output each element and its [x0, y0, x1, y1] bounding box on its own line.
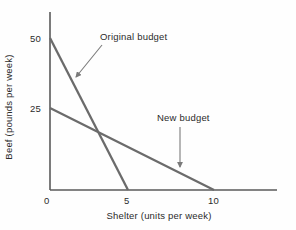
x-tick-label-0: 0	[44, 195, 49, 206]
y-tick-label-25: 25	[30, 103, 41, 114]
y-tick-label-50: 50	[30, 33, 41, 44]
x-axis-title: Shelter (units per week)	[106, 210, 211, 221]
original-budget-label: Original budget	[100, 31, 167, 42]
x-tick-label-10: 10	[208, 195, 219, 206]
new-budget-label: New budget	[157, 112, 210, 123]
y-axis-title: Beef (pounds per week)	[3, 54, 14, 159]
x-tick-label-5: 5	[124, 195, 129, 206]
original-budget-arrow	[76, 45, 102, 77]
budget-line-chart: Beef (pounds per week) Shelter (units pe…	[0, 0, 296, 230]
